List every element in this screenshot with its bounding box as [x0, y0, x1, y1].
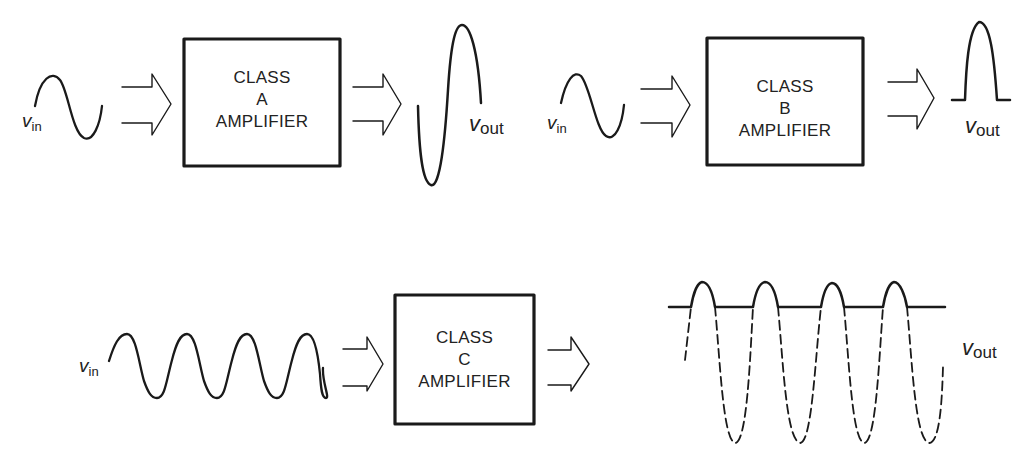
class-b-output-arrow-icon — [888, 69, 934, 129]
class-c-output-dashed-sine — [685, 307, 943, 443]
class-c-box-line2: C — [395, 349, 534, 371]
class-a-input-subscript: in — [32, 119, 42, 134]
class-c-box-line1: CLASS — [395, 327, 534, 349]
class-c-input-symbol: v — [79, 355, 89, 376]
class-a-input-label: vin — [22, 110, 42, 132]
class-b-input-sine — [561, 74, 624, 137]
class-b-input-label: vin — [547, 112, 567, 134]
class-c-input-label: vin — [79, 355, 99, 377]
class-b-output-pulse — [952, 22, 1010, 100]
class-a-box-line3: AMPLIFIER — [184, 111, 340, 133]
class-c-input-arrow-icon — [343, 337, 383, 391]
class-b-output-symbol: v — [965, 113, 976, 138]
class-c-input-subscript: in — [89, 364, 99, 379]
class-c-output-symbol: v — [962, 335, 973, 360]
class-a-output-sine — [418, 25, 481, 185]
class-c-input-sine — [109, 334, 327, 398]
class-b-input-arrow-icon — [641, 76, 690, 137]
class-b-input-symbol: v — [547, 112, 557, 133]
class-b-box-line1: CLASS — [707, 76, 863, 98]
class-a-input-arrow-icon — [122, 74, 171, 135]
class-a-output-symbol: v — [469, 111, 480, 136]
class-a-output-subscript: out — [480, 119, 504, 138]
class-b-output-subscript: out — [976, 121, 1000, 140]
class-c-output-pulses — [669, 282, 945, 307]
class-b-input-subscript: in — [557, 121, 567, 136]
class-b-box-label: CLASS B AMPLIFIER — [707, 76, 863, 142]
class-a-box-line1: CLASS — [184, 67, 340, 89]
class-c-output-subscript: out — [973, 343, 997, 362]
class-c-box-label: CLASS C AMPLIFIER — [395, 327, 534, 393]
class-a-input-symbol: v — [22, 110, 32, 131]
class-a-output-label: vout — [469, 111, 504, 137]
class-a-input-sine — [35, 76, 102, 139]
class-a-box-label: CLASS A AMPLIFIER — [184, 67, 340, 133]
class-c-output-arrow-icon — [548, 337, 589, 391]
class-a-box-line2: A — [184, 89, 340, 111]
class-a-output-arrow-icon — [353, 74, 401, 135]
class-c-output-label: vout — [962, 335, 997, 361]
class-c-box-line3: AMPLIFIER — [395, 371, 534, 393]
class-b-output-label: vout — [965, 113, 1000, 139]
class-b-box-line3: AMPLIFIER — [707, 120, 863, 142]
class-b-box-line2: B — [707, 98, 863, 120]
